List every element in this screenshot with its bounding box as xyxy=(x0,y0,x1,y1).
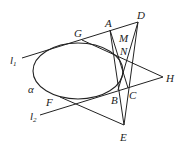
label-l2: l2 xyxy=(30,110,37,124)
label-l1: l1 xyxy=(10,54,17,68)
label-D: D xyxy=(136,9,145,21)
label-E: E xyxy=(119,131,127,143)
geometry-diagram: A D G M N H C B E F α l1 l2 xyxy=(0,0,185,147)
label-B: B xyxy=(111,94,118,106)
label-N: N xyxy=(119,45,128,57)
label-alpha: α xyxy=(28,83,34,95)
label-F: F xyxy=(45,96,53,108)
ellipse-alpha xyxy=(33,43,123,99)
label-G: G xyxy=(74,27,82,39)
label-M: M xyxy=(118,32,129,44)
label-C: C xyxy=(129,89,137,101)
label-A: A xyxy=(104,17,112,29)
label-H: H xyxy=(165,72,175,84)
